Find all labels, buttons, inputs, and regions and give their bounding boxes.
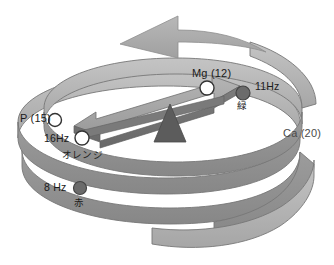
label-8hz: 8 Hz [44, 182, 66, 193]
label-11hz: 11Hz [255, 81, 280, 92]
marker-red-8hz[interactable] [74, 182, 87, 195]
label-ca: Ca (20) [283, 128, 321, 139]
spiral-frequency-diagram: Mg (12) 11Hz 緑 P (15) 16Hz オレンジ 8 Hz 赤 C… [0, 0, 334, 265]
label-green-jp: 緑 [237, 101, 247, 111]
label-mg: Mg (12) [192, 68, 231, 79]
marker-green-11hz[interactable] [236, 86, 250, 100]
rotation-direction-arrow [120, 16, 266, 58]
marker-mg[interactable] [200, 81, 214, 95]
label-p: P (15) [20, 113, 51, 124]
label-orange-jp: オレンジ [62, 150, 103, 160]
label-16hz: 16Hz [44, 133, 69, 144]
label-red-jp: 赤 [74, 198, 84, 208]
marker-orange-16hz[interactable] [75, 131, 89, 145]
